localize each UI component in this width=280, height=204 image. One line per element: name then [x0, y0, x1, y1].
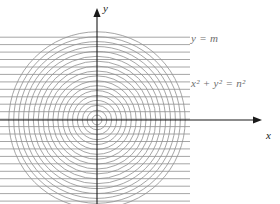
math-diagram-figure: y = m x² + y² = n² y x [0, 0, 280, 204]
plot-canvas [0, 0, 280, 204]
y-axis-arrowhead [93, 8, 100, 17]
x-axis-arrowhead [253, 116, 262, 123]
x-axis-label: x [266, 130, 271, 141]
horizontal-family-label: y = m [191, 33, 218, 44]
circle-family-label: x² + y² = n² [191, 78, 246, 89]
y-axis-label: y [103, 3, 108, 14]
